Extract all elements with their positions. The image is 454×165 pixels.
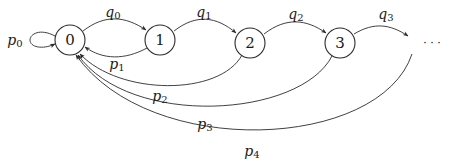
edge-q0 [83, 19, 146, 31]
edge-q1 [174, 19, 236, 33]
edge-p0-self-loop [30, 32, 55, 47]
node-1: 1 [145, 25, 175, 55]
label-q2: q2 [288, 6, 303, 23]
edge-q2 [264, 22, 326, 34]
state-diagram: 0 1 2 3 · · · p0 q0 q1 q2 q3 p1 p2 p3 p4 [0, 0, 454, 165]
label-q1: q1 [196, 4, 211, 21]
node-2: 2 [235, 28, 265, 58]
edge-p2 [80, 54, 242, 86]
label-p3: p3 [197, 116, 212, 133]
edge-q3 [354, 26, 408, 36]
label-q3: q3 [378, 6, 393, 23]
node-1-label: 1 [155, 31, 165, 49]
node-3: 3 [325, 28, 355, 58]
label-q0: q0 [105, 4, 120, 21]
node-3-label: 3 [335, 34, 345, 52]
label-p0: p0 [7, 32, 22, 49]
ellipsis-node: · · · [423, 37, 440, 50]
node-0: 0 [55, 25, 85, 55]
node-2-label: 2 [245, 34, 255, 52]
label-p1: p1 [109, 56, 124, 73]
edge-p4 [76, 54, 412, 130]
label-p4: p4 [244, 143, 259, 160]
node-0-label: 0 [65, 31, 75, 49]
label-p2: p2 [152, 88, 167, 105]
